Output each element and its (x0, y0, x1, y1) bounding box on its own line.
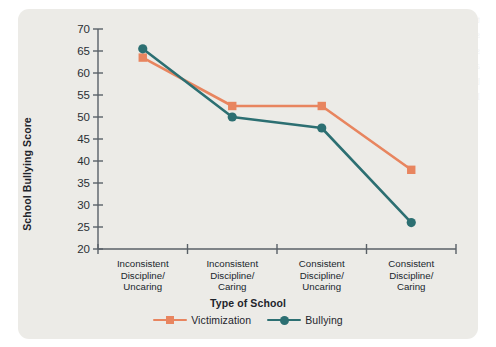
data-point-marker (317, 123, 326, 132)
legend-label: Bullying (305, 314, 343, 326)
x-category-label: InconsistentDiscipline/Uncaring (100, 258, 186, 293)
y-tick-label: 65 (77, 45, 90, 57)
x-category-label: ConsistentDiscipline/Caring (368, 258, 454, 293)
legend-circle-icon (280, 316, 289, 325)
x-category-label-line: Inconsistent (100, 258, 186, 270)
y-tick-label: 70 (77, 23, 90, 35)
x-category-label-line: Caring (368, 281, 454, 293)
y-axis-tick-labels: 7065605550454035302520 (54, 9, 90, 339)
legend-square-icon (166, 316, 174, 324)
x-category-label-line: Discipline/ (368, 270, 454, 282)
y-tick-label: 45 (77, 133, 90, 145)
y-axis-title-text: School Bullying Score (21, 117, 33, 231)
legend-entry-bullying[interactable]: Bullying (267, 314, 343, 326)
x-category-label-line: Consistent (368, 258, 454, 270)
legend-entry-victimization[interactable]: Victimization (153, 314, 251, 326)
y-tick-label: 40 (77, 155, 90, 167)
series-bullying (138, 44, 416, 227)
x-category-label-line: Discipline/ (189, 270, 275, 282)
x-category-label-line: Consistent (279, 258, 365, 270)
x-category-label: ConsistentDiscipline/Uncaring (279, 258, 365, 293)
y-tick-label: 30 (77, 199, 90, 211)
x-category-label-line: Inconsistent (189, 258, 275, 270)
y-tick-label: 25 (77, 221, 90, 233)
data-point-marker (318, 102, 326, 110)
data-point-marker (407, 166, 415, 174)
data-series-layer (138, 44, 416, 227)
y-tick-label: 35 (77, 177, 90, 189)
chart-figure-panel: 7065605550454035302520 InconsistentDisci… (18, 9, 478, 339)
x-category-label-line: Discipline/ (279, 270, 365, 282)
legend-marker (153, 315, 187, 326)
series-line (143, 49, 412, 223)
x-axis-title: Type of School (18, 297, 478, 309)
chart-legend: VictimizationBullying (18, 314, 478, 326)
x-category-label-line: Uncaring (100, 281, 186, 293)
x-category-label-line: Caring (189, 281, 275, 293)
data-point-marker (228, 112, 237, 121)
y-tick-label: 55 (77, 89, 90, 101)
data-point-marker (228, 102, 236, 110)
series-victimization (139, 53, 416, 174)
y-tick-label: 20 (77, 243, 90, 255)
y-tick-label: 50 (77, 111, 90, 123)
data-point-marker (138, 44, 147, 53)
y-tick-label: 60 (77, 67, 90, 79)
series-line (143, 58, 412, 170)
data-point-marker (139, 53, 147, 61)
x-category-label-line: Uncaring (279, 281, 365, 293)
legend-marker (267, 315, 301, 326)
data-point-marker (407, 218, 416, 227)
x-category-label-line: Discipline/ (100, 270, 186, 282)
x-category-label: InconsistentDiscipline/Caring (189, 258, 275, 293)
legend-label: Victimization (191, 314, 251, 326)
